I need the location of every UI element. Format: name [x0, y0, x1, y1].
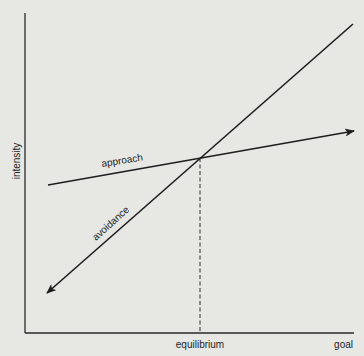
axes: [25, 13, 354, 333]
diagram-canvas: approach avoidance intensity equilibrium…: [0, 0, 364, 356]
approach-line: [48, 131, 354, 185]
approach-label: approach: [101, 152, 144, 169]
x-axis-label: goal: [334, 339, 353, 350]
approach-avoidance-diagram: approach avoidance intensity equilibrium…: [0, 0, 364, 356]
y-axis-label: intensity: [11, 143, 22, 180]
equilibrium-label: equilibrium: [176, 339, 224, 350]
